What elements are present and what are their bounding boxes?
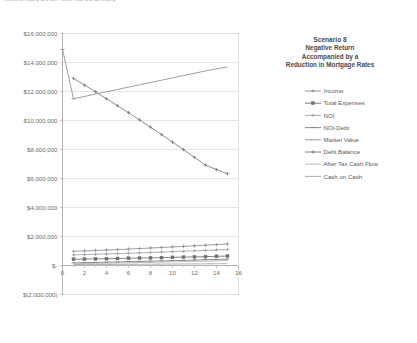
x-axis-tick-label: 6 <box>127 269 131 276</box>
legend-subtitle-line: Accompanied by a <box>302 53 359 61</box>
legend-subtitle-line: Reduction in Mortgage Rates <box>286 61 375 69</box>
chart-figure: Return on Equity and Net ‑ Cash Flow and… <box>0 0 417 343</box>
legend-group: Scenario 8Negative ReturnAccompanied by … <box>286 36 379 180</box>
clipped-header-text: Return on Equity and Net ‑ Cash Flow and… <box>4 0 244 4</box>
data-series-group <box>61 49 230 264</box>
legend-item-label: Debt Balance <box>324 148 361 155</box>
x-axis-ticks-group: 0246810121416 <box>61 269 243 276</box>
legend-item-cash-on-cash[interactable]: Cash on Cash <box>305 173 362 180</box>
legend-item-label: After Tax Cash Flow <box>324 160 379 167</box>
plot-area-border <box>63 34 239 295</box>
series-line-cash-on-cash <box>74 264 228 265</box>
x-axis-tick-label: 10 <box>169 269 176 276</box>
legend-item-market-value[interactable]: Market Value <box>305 136 360 143</box>
legend-item-label: Income <box>324 87 345 94</box>
legend-item-total-expenses[interactable]: Total Expenses <box>305 99 365 106</box>
y-axis-tick-label: $2,000,000 <box>27 233 58 240</box>
y-axis-ticks-group: $16,000,000$14,000,000$12,000,000$10,000… <box>23 30 58 298</box>
y-axis-tick-label: $6,000,000 <box>27 175 58 182</box>
x-axis-tick-label: 14 <box>213 269 220 276</box>
legend-item-noi-debt[interactable]: NOI-Debt <box>305 124 350 131</box>
x-axis-tick-label: 8 <box>149 269 153 276</box>
legend-item-label: Market Value <box>324 136 360 143</box>
y-axis-tick-label: $(2,000,000) <box>23 291 58 298</box>
legend-item-noi[interactable]: NOI <box>305 112 335 119</box>
series-marker-total-expenses <box>127 257 130 260</box>
legend-item-label: Total Expenses <box>324 99 365 106</box>
series-marker-total-expenses <box>83 258 86 261</box>
legend-item-label: NOI <box>324 112 335 119</box>
legend-item-income[interactable]: Income <box>305 87 344 94</box>
legend-item-debt-balance[interactable]: Debt Balance <box>305 148 361 155</box>
gridlines-group <box>60 34 239 295</box>
line-chart-canvas: $16,000,000$14,000,000$12,000,000$10,000… <box>0 0 417 343</box>
series-marker-total-expenses <box>215 255 218 258</box>
x-axis-tick-label: 12 <box>191 269 198 276</box>
series-marker-total-expenses <box>193 255 196 258</box>
legend-title: Scenario 8 <box>313 36 347 43</box>
series-line-market-value <box>74 67 228 99</box>
legend-subtitle-line: Negative Return <box>305 44 354 52</box>
series-marker-total-expenses <box>226 255 229 258</box>
series-marker-total-expenses <box>72 258 75 261</box>
y-axis-tick-label: $14,000,000 <box>24 59 58 66</box>
legend-item-label: Cash on Cash <box>324 173 363 180</box>
y-axis-tick-label: $10,000,000 <box>24 117 58 124</box>
series-marker-total-expenses <box>138 257 141 260</box>
x-axis-tick-label: 2 <box>83 269 87 276</box>
y-axis-tick-label: $16,000,000 <box>24 30 58 37</box>
series-marker-total-expenses <box>116 257 119 260</box>
series-marker-total-expenses <box>94 257 97 260</box>
series-marker-total-expenses <box>171 256 174 259</box>
legend-item-label: NOI-Debt <box>324 124 350 131</box>
axis-lines-group <box>63 34 239 295</box>
legend-item-after-tax-cash-flow[interactable]: After Tax Cash Flow <box>305 160 379 167</box>
legend-swatch-marker <box>312 102 315 105</box>
y-axis-tick-label: $4,000,000 <box>27 204 58 211</box>
series-marker-total-expenses <box>149 256 152 259</box>
x-axis-tick-label: 4 <box>105 269 109 276</box>
series-marker-total-expenses <box>105 257 108 260</box>
x-axis-tick-label: 16 <box>235 269 242 276</box>
series-marker-total-expenses <box>204 255 207 258</box>
series-marker-total-expenses <box>182 256 185 259</box>
y-axis-tick-label: $12,000,000 <box>24 88 58 95</box>
y-axis-tick-label: $8,000,000 <box>27 146 58 153</box>
series-marker-total-expenses <box>160 256 163 259</box>
y-axis-tick-label: $- <box>52 262 57 269</box>
